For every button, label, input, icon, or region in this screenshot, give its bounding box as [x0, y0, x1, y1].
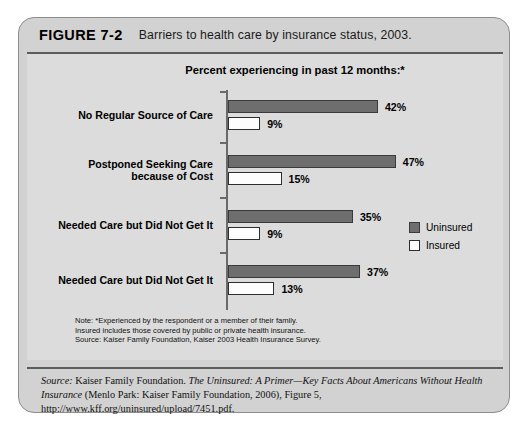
figure-number: FIGURE 7-2	[39, 27, 123, 43]
legend-label-insured: Insured	[426, 240, 460, 251]
note-line: Source: Kaiser Family Foundation, Kaiser…	[75, 335, 321, 345]
category-label: No Regular Source of Care	[0, 109, 213, 121]
category-label-line: because of Cost	[0, 170, 213, 182]
bar-insured	[228, 227, 260, 240]
bar-value-label: 15%	[289, 173, 310, 185]
bar-value-label: 35%	[360, 211, 381, 223]
chart-notes: Note: *Experienced by the respondent or …	[75, 316, 321, 345]
bar-value-label: 47%	[403, 156, 424, 168]
note-line: Insured includes those covered by public…	[75, 326, 321, 336]
bar-uninsured	[228, 100, 378, 113]
axis-tick	[220, 142, 227, 144]
legend-label-uninsured: Uninsured	[426, 222, 472, 233]
bar-value-label: 37%	[367, 266, 388, 278]
bar-insured	[228, 172, 282, 185]
figure-caption: Barriers to health care by insurance sta…	[139, 28, 412, 42]
bar-value-label: 9%	[267, 118, 282, 130]
source-label: Source:	[41, 375, 73, 386]
bar-chart-plot: No Regular Source of Care42%9%Postponed …	[27, 54, 503, 360]
bar-value-label: 13%	[281, 283, 302, 295]
axis-tick	[220, 197, 227, 199]
category-label-line: No Regular Source of Care	[0, 109, 213, 121]
figure-title-bar: FIGURE 7-2 Barriers to health care by in…	[19, 18, 509, 52]
category-label: Needed Care but Did Not Get It	[0, 274, 213, 286]
legend-swatch-uninsured	[409, 222, 420, 233]
legend-item-insured: Insured	[409, 240, 472, 251]
bar-insured	[228, 282, 274, 295]
category-label-line: Postponed Seeking Care	[0, 158, 213, 170]
category-label-line: Needed Care but Did Not Get It	[0, 274, 213, 286]
axis-tick	[220, 91, 227, 93]
figure-frame: FIGURE 7-2 Barriers to health care by in…	[18, 17, 510, 413]
bar-insured	[228, 117, 260, 130]
bar-value-label: 9%	[267, 228, 282, 240]
legend-item-uninsured: Uninsured	[409, 222, 472, 233]
chart-legend: Uninsured Insured	[409, 222, 472, 258]
bar-value-label: 42%	[385, 101, 406, 113]
bar-uninsured	[228, 155, 396, 168]
category-label: Needed Care but Did Not Get It	[0, 219, 213, 231]
bar-uninsured	[228, 210, 353, 223]
source-publisher: Kaiser Family Foundation.	[73, 375, 189, 386]
category-label-line: Needed Care but Did Not Get It	[0, 219, 213, 231]
chart-panel: Percent experiencing in past 12 months:*…	[27, 54, 503, 360]
legend-swatch-insured	[409, 240, 420, 251]
axis-tick	[220, 252, 227, 254]
source-divider	[27, 367, 503, 369]
note-line: Note: *Experienced by the respondent or …	[75, 316, 321, 326]
source-rest: (Menlo Park: Kaiser Family Foundation, 2…	[41, 389, 322, 414]
category-label: Postponed Seeking Carebecause of Cost	[0, 158, 213, 183]
source-citation: Source: Kaiser Family Foundation. The Un…	[41, 374, 493, 416]
bar-uninsured	[228, 265, 360, 278]
